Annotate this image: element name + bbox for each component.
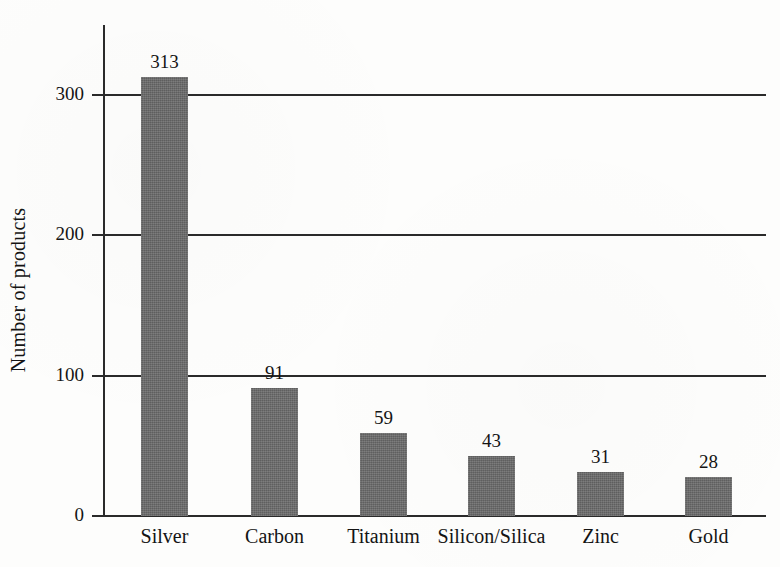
- y-tick-label-100: 100: [24, 365, 84, 384]
- y-tick-label-wrap-300: 300: [22, 84, 84, 104]
- bar-value-label-silver: 313: [121, 52, 208, 71]
- bar-value-label-gold: 28: [665, 452, 752, 471]
- y-tick-label-200: 200: [24, 224, 84, 243]
- y-tick-mark-0: [92, 515, 105, 517]
- bar-value-label-titanium: 59: [340, 408, 427, 427]
- y-tick-label-300: 300: [24, 84, 84, 103]
- gridline-300: [105, 94, 766, 96]
- bar-titanium: [360, 433, 407, 516]
- y-tick-mark-100: [92, 375, 105, 377]
- bar-value-label-silicon-silica: 43: [448, 431, 535, 450]
- y-tick-mark-200: [92, 234, 105, 236]
- bar-silicon-silica: [468, 456, 515, 516]
- gridline-100: [105, 375, 766, 377]
- y-tick-label-wrap-100: 100: [22, 365, 84, 385]
- y-tick-mark-300: [92, 94, 105, 96]
- bar-carbon: [251, 388, 298, 516]
- bar-zinc: [577, 472, 624, 516]
- bar-value-label-zinc: 31: [557, 447, 644, 466]
- x-axis-label-gold: Gold: [639, 525, 779, 547]
- y-tick-label-0: 0: [24, 505, 84, 524]
- bar-chart: Number of products 3002001000 313Silver9…: [0, 0, 780, 567]
- y-axis-line: [103, 25, 105, 517]
- bar-value-label-carbon: 91: [231, 363, 318, 382]
- gridline-200: [105, 234, 766, 236]
- y-tick-label-wrap-200: 200: [22, 224, 84, 244]
- bar-gold: [685, 477, 732, 516]
- gridline-0: [105, 515, 766, 517]
- y-tick-label-wrap-0: 0: [22, 505, 84, 525]
- bar-silver: [141, 77, 188, 516]
